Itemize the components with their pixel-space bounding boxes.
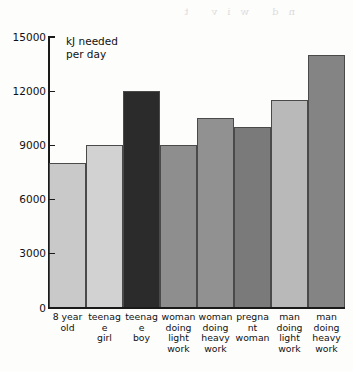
y-axis-tick <box>48 91 55 92</box>
y-axis-tick <box>48 307 55 308</box>
bar-4 <box>160 145 197 308</box>
bar-series <box>49 37 345 308</box>
y-axis-tick <box>48 36 55 37</box>
category-label-6: pregnantwoman <box>234 312 271 354</box>
category-label-7: mandoinglightwork <box>271 312 308 354</box>
y-axis-tick <box>48 253 55 254</box>
category-label-3: teenageboy <box>123 312 160 354</box>
bar-3 <box>123 91 160 308</box>
y-axis-tick-label: 0 <box>2 303 46 314</box>
category-label-5: womandoingheavywork <box>197 312 234 354</box>
bar-5 <box>197 118 234 308</box>
y-axis-tick-label: 12000 <box>2 86 46 97</box>
category-label-8: mandoingheavywork <box>308 312 345 354</box>
category-label-2: teenagegirl <box>86 312 123 354</box>
bar-2 <box>86 145 123 308</box>
y-axis-tick-label: 15000 <box>2 32 46 43</box>
y-axis-tick-label: 3000 <box>2 248 46 259</box>
bar-8 <box>308 55 345 308</box>
bar-6 <box>234 127 271 308</box>
bar-chart-figure: nd wiv t kJ needed per day 0300060009000… <box>0 0 353 371</box>
category-label-1: 8 yearold <box>49 312 86 354</box>
bar-1 <box>49 163 86 308</box>
page-bleedthrough-text: nd wiv t <box>135 6 295 26</box>
x-axis-category-labels: 8 yearoldteenagegirlteenageboywomandoing… <box>49 312 345 354</box>
plot-area <box>49 37 345 308</box>
x-axis-line <box>48 307 345 309</box>
y-axis-tick <box>48 145 55 146</box>
category-label-4: womandoinglightwork <box>160 312 197 354</box>
y-axis-tick-label: 9000 <box>2 140 46 151</box>
y-axis-tick-label: 6000 <box>2 194 46 205</box>
y-axis-tick <box>48 199 55 200</box>
bar-7 <box>271 100 308 308</box>
